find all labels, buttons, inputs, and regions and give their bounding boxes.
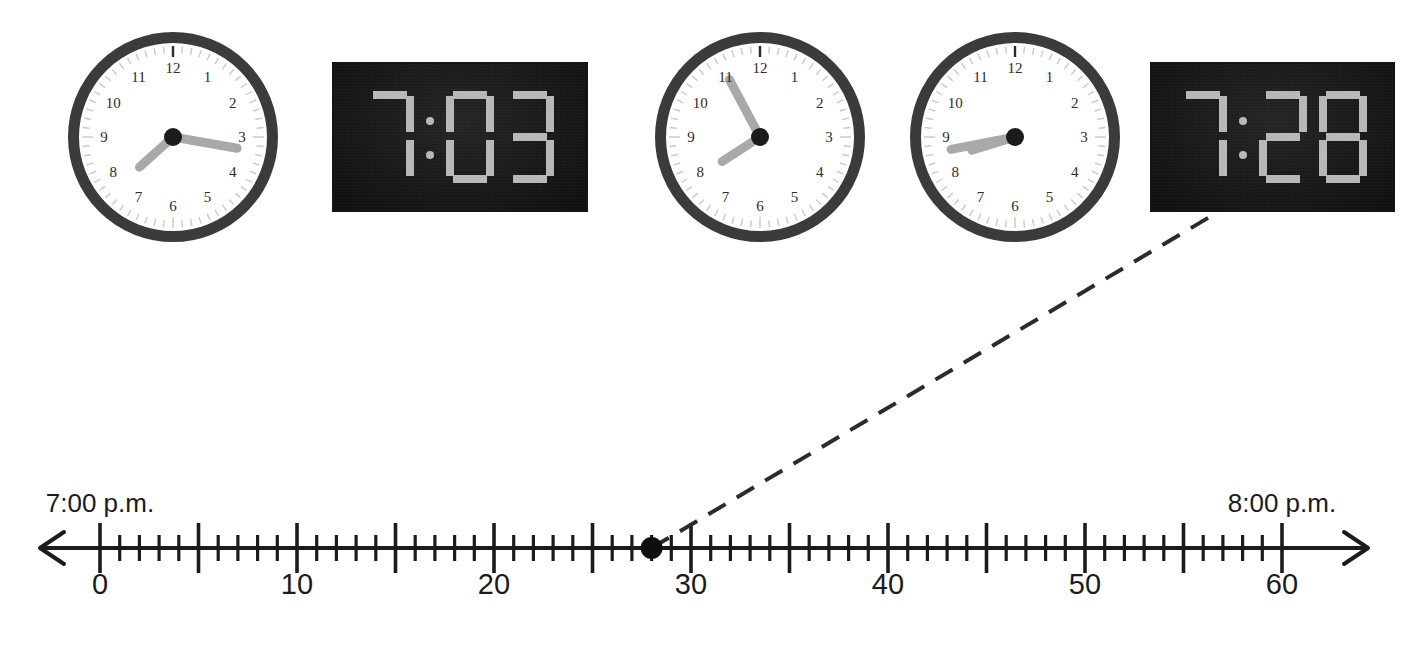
clock-minute-tick xyxy=(941,186,947,190)
axis-tick-label: 60 xyxy=(1266,570,1298,599)
clock-minute-tick xyxy=(996,48,997,55)
clock-minute-tick xyxy=(928,109,935,111)
clock-minute-tick xyxy=(1005,221,1006,228)
clock-minute-tick xyxy=(941,84,947,88)
clock-hour-numeral: 9 xyxy=(687,130,695,145)
clock-minute-tick xyxy=(86,163,93,165)
clock-minute-tick xyxy=(94,179,100,183)
segment-d xyxy=(513,175,547,183)
clock-minute-tick xyxy=(777,48,778,55)
clock-minute-tick xyxy=(235,193,240,198)
segment-g xyxy=(1266,133,1300,141)
clock-minute-tick xyxy=(699,69,704,74)
clock-minute-tick xyxy=(1083,186,1089,190)
segment-e xyxy=(1259,140,1267,176)
clock-minute-tick xyxy=(978,214,981,220)
clock-minute-tick xyxy=(105,193,110,198)
clock-minute-tick xyxy=(1057,58,1061,64)
axis-tick-label: 40 xyxy=(872,570,904,599)
clock-minute-tick xyxy=(199,217,201,224)
clock-minute-tick xyxy=(255,118,262,119)
clock-minute-tick xyxy=(936,179,942,183)
clock-minute-tick xyxy=(840,109,847,111)
clock-minute-tick xyxy=(154,219,155,226)
clock-minute-tick xyxy=(94,92,100,96)
clock-minute-tick xyxy=(670,127,677,128)
seven-segment-digit xyxy=(1177,91,1229,183)
segment-f xyxy=(1319,96,1327,132)
clock-minute-tick xyxy=(833,92,839,96)
clock-minute-tick xyxy=(802,58,806,64)
clock-minute-tick xyxy=(816,69,821,74)
clock-minute-tick xyxy=(802,210,806,216)
clock-minute-tick xyxy=(987,217,989,224)
clock-minute-tick xyxy=(723,54,726,60)
clock-minute-tick xyxy=(925,146,932,147)
clock-minute-tick xyxy=(136,214,139,220)
clock-minute-tick xyxy=(215,58,219,64)
clock-hour-numeral: 6 xyxy=(756,199,764,214)
clock-hour-numeral: 12 xyxy=(1008,61,1023,76)
clock-hour-numeral: 6 xyxy=(1011,199,1019,214)
clock-minute-tick xyxy=(229,199,234,204)
clock-hour-numeral: 11 xyxy=(718,70,732,85)
axis-tick-label: 20 xyxy=(478,570,510,599)
clock-minute-tick xyxy=(741,48,742,55)
clock-minute-tick xyxy=(1099,127,1106,128)
clock-center-hub xyxy=(164,128,182,146)
clock-minute-tick xyxy=(207,214,210,220)
axis-arrow-left xyxy=(40,532,64,564)
segment-c xyxy=(486,140,494,176)
clock-minute-tick xyxy=(794,214,797,220)
seven-segment-digit xyxy=(1257,91,1309,183)
seven-segment-digit xyxy=(1317,91,1369,183)
clock-hour-numeral: 4 xyxy=(229,164,237,179)
clock-minute-tick xyxy=(769,47,770,54)
clock-minute-tick xyxy=(932,100,938,103)
clock-minute-tick xyxy=(1099,146,1106,147)
clock-minute-tick xyxy=(828,84,834,88)
clock-minute-hand xyxy=(729,80,760,137)
clock-minute-tick xyxy=(1064,63,1068,69)
clock-minute-tick xyxy=(750,221,751,228)
clock-minute-tick xyxy=(207,54,210,60)
clock-hour-numeral: 10 xyxy=(948,95,963,110)
segment-d xyxy=(1266,175,1300,183)
dashed-connector-line xyxy=(652,212,1218,548)
clock-hour-numeral: 10 xyxy=(693,95,708,110)
clock-minute-tick xyxy=(1092,171,1098,174)
digital-colon xyxy=(422,91,438,183)
plotted-point-marker[interactable] xyxy=(641,537,663,559)
clock-minute-tick xyxy=(677,171,683,174)
clock-minute-tick xyxy=(257,127,264,128)
clock-minute-tick xyxy=(723,214,726,220)
clock-minute-tick xyxy=(962,63,966,69)
clock-minute-tick xyxy=(255,154,262,155)
clock-minute-tick xyxy=(222,205,226,211)
clock-minute-tick xyxy=(996,219,997,226)
clock-minute-tick xyxy=(828,186,834,190)
clock-hour-numeral: 7 xyxy=(977,189,985,204)
clock-minute-tick xyxy=(250,100,256,103)
clock-hour-numeral: 4 xyxy=(816,164,824,179)
clock-minute-tick xyxy=(1092,100,1098,103)
number-line-endpoint-label: 7:00 p.m. xyxy=(46,490,154,516)
clock-hour-numeral: 9 xyxy=(100,130,108,145)
clock-minute-tick xyxy=(928,163,935,165)
clock-minute-hand xyxy=(951,137,1015,149)
seven-segment-digit xyxy=(444,91,496,183)
clock-hour-numeral: 8 xyxy=(951,164,959,179)
clock-minute-tick xyxy=(936,92,942,96)
clock-minute-tick xyxy=(786,50,788,57)
clock-minute-tick xyxy=(844,127,851,128)
worksheet-canvas: 1212345678910117:03121234567891011121234… xyxy=(0,0,1427,665)
clock-minute-tick xyxy=(692,76,697,81)
clock-minute-tick xyxy=(1088,179,1094,183)
segment-c xyxy=(1359,140,1367,176)
clock-minute-tick xyxy=(670,146,677,147)
segment-b xyxy=(1299,96,1307,132)
clock-minute-tick xyxy=(1024,47,1025,54)
clock-minute-tick xyxy=(750,47,751,54)
clock-minute-tick xyxy=(926,118,933,119)
clock-hour-numeral: 1 xyxy=(791,70,799,85)
